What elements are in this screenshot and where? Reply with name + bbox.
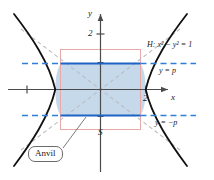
hyperbola-equation-label: H: x² − y² = 1 — [147, 40, 192, 49]
x-axis-label: x — [171, 92, 175, 102]
hyperbola-equation-text: H: x² − y² = 1 — [147, 40, 192, 49]
y-axis-arrow-icon — [98, 14, 104, 21]
line-label-y-equals-minus-p: y = −p — [155, 118, 177, 127]
x-tick-label-2: 2 — [143, 93, 148, 103]
region-label-s: S — [98, 127, 103, 137]
line-label-y-equals-p: y = p — [159, 66, 176, 75]
y-axis-label: y — [88, 8, 92, 18]
callout-leader-line — [63, 117, 86, 148]
anvil-callout[interactable]: Anvil — [28, 146, 63, 162]
x-axis-arrow-icon — [161, 87, 168, 93]
y-tick-label-2: 2 — [88, 28, 93, 38]
